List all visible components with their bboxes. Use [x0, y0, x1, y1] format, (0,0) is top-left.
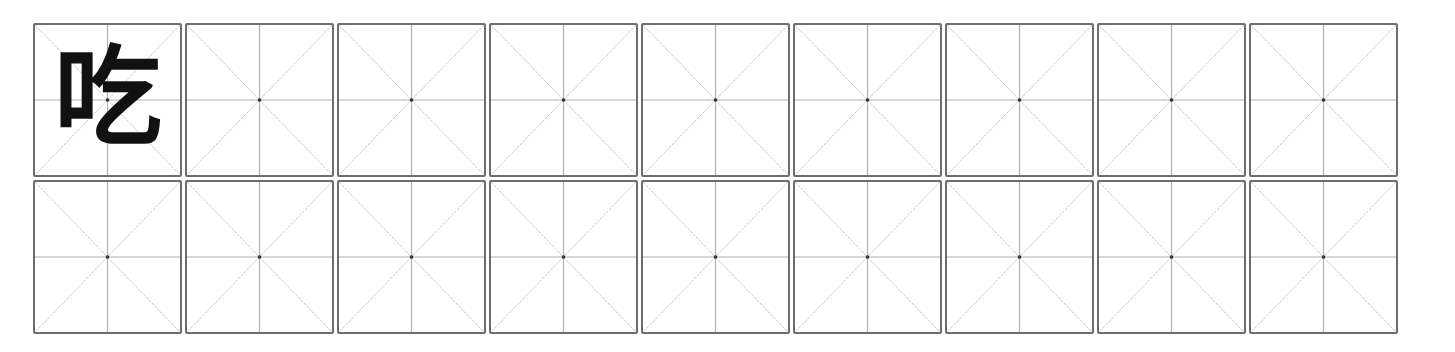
practice-character: [795, 25, 940, 175]
grid-cell-r2-c5[interactable]: [641, 180, 790, 334]
practice-character: [1251, 182, 1396, 332]
practice-character: [491, 182, 636, 332]
grid-cell-r1-c1[interactable]: 吃: [33, 23, 182, 177]
grid-cell-r1-c5[interactable]: [641, 23, 790, 177]
grid-cell-r2-c8[interactable]: [1097, 180, 1246, 334]
grid-cell-r1-c8[interactable]: [1097, 23, 1246, 177]
grid-cell-r2-c4[interactable]: [489, 180, 638, 334]
grid-cell-r1-c3[interactable]: [337, 23, 486, 177]
grid-cell-r1-c2[interactable]: [185, 23, 334, 177]
grid-cell-r1-c6[interactable]: [793, 23, 942, 177]
practice-character: [643, 25, 788, 175]
grid-cell-r2-c1[interactable]: [33, 180, 182, 334]
grid-cell-r1-c4[interactable]: [489, 23, 638, 177]
practice-character: [187, 25, 332, 175]
grid-cell-r2-c7[interactable]: [945, 180, 1094, 334]
grid-cell-r2-c6[interactable]: [793, 180, 942, 334]
grid-cell-r1-c9[interactable]: [1249, 23, 1398, 177]
practice-character: [491, 25, 636, 175]
grid-cell-r2-c3[interactable]: [337, 180, 486, 334]
practice-grid: 吃: [33, 23, 1398, 334]
practice-character: [795, 182, 940, 332]
practice-character: [35, 182, 180, 332]
practice-character: [643, 182, 788, 332]
grid-cell-r2-c9[interactable]: [1249, 180, 1398, 334]
practice-character: 吃: [35, 25, 180, 175]
practice-character: [339, 182, 484, 332]
practice-character: [1099, 182, 1244, 332]
practice-character: [187, 182, 332, 332]
practice-character: [1251, 25, 1396, 175]
practice-character: [339, 25, 484, 175]
practice-character: [947, 25, 1092, 175]
grid-cell-r2-c2[interactable]: [185, 180, 334, 334]
practice-character: [947, 182, 1092, 332]
grid-cell-r1-c7[interactable]: [945, 23, 1094, 177]
practice-character: [1099, 25, 1244, 175]
